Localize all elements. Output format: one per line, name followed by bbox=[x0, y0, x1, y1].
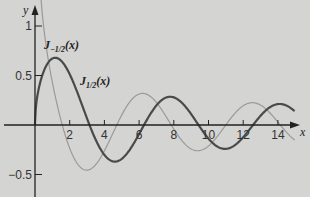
x-tick-label: 4 bbox=[101, 128, 108, 142]
x-tick-label: 14 bbox=[271, 128, 285, 142]
x-axis-label: x bbox=[299, 125, 306, 139]
x-tick-label: 8 bbox=[170, 128, 177, 142]
y-axis-arrow-icon bbox=[32, 5, 39, 15]
series-line-j-minus-half bbox=[41, 0, 295, 170]
curves bbox=[35, 0, 295, 170]
curve-label-j-half: J1/2(x) bbox=[79, 74, 110, 90]
curve-label-j-minus-half: J−1/2(x) bbox=[43, 38, 79, 54]
series-line-j-half bbox=[35, 58, 295, 162]
x-ticks: 2468101214 bbox=[66, 120, 285, 142]
x-tick-label: 12 bbox=[237, 128, 251, 142]
y-tick-label: −0.5 bbox=[8, 168, 32, 182]
y-tick-label: 1 bbox=[25, 19, 32, 33]
curve-labels: J−1/2(x)J1/2(x) bbox=[43, 38, 110, 90]
y-axis-label: y bbox=[22, 3, 29, 17]
bessel-chart: 2468101214 10.5−0.5 x y J−1/2(x)J1/2(x) bbox=[0, 0, 312, 203]
x-tick-label: 6 bbox=[136, 128, 143, 142]
x-axis-arrow-icon bbox=[290, 122, 300, 129]
y-tick-label: 0.5 bbox=[15, 69, 32, 83]
x-tick-label: 10 bbox=[202, 128, 216, 142]
x-tick-label: 2 bbox=[66, 128, 73, 142]
